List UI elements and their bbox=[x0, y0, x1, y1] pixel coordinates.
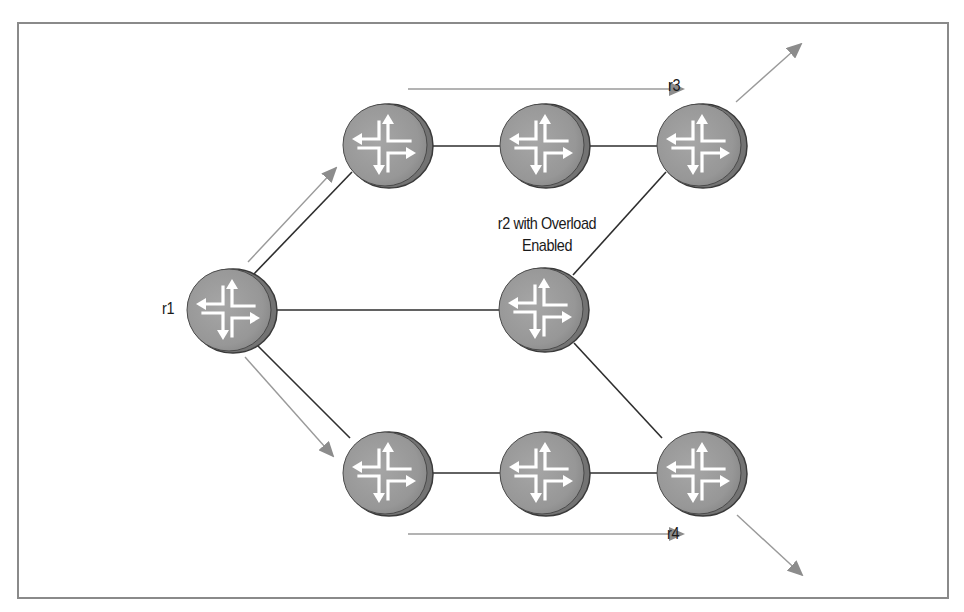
router-icon bbox=[187, 269, 277, 353]
router-icon bbox=[657, 432, 747, 516]
router-node-top-left bbox=[343, 104, 433, 188]
label-r2-line2: Enabled bbox=[475, 236, 620, 256]
traffic-arrow-r4-exit bbox=[737, 515, 802, 575]
router-node-bottom-mid bbox=[500, 432, 590, 516]
traffic-arrow-r3-exit bbox=[736, 44, 801, 102]
router-node-top-mid bbox=[500, 104, 590, 188]
link-r1-bottom-left bbox=[255, 343, 350, 438]
router-node-bottom-left bbox=[343, 432, 433, 516]
link-r1-top-left bbox=[252, 172, 352, 276]
router-icon bbox=[499, 268, 589, 352]
label-r2-line1: r2 with Overload bbox=[475, 214, 620, 234]
router-icon bbox=[343, 432, 433, 516]
router-icon bbox=[657, 104, 747, 188]
links bbox=[252, 146, 666, 473]
traffic-arrow-r1-down bbox=[245, 357, 333, 456]
label-r1: r1 bbox=[162, 299, 174, 319]
router-icon bbox=[500, 432, 590, 516]
router-node-r2 bbox=[499, 268, 589, 352]
label-r3: r3 bbox=[668, 76, 680, 96]
link-r2-r4 bbox=[574, 343, 662, 438]
router-node-r1 bbox=[187, 269, 277, 353]
router-node-r3 bbox=[657, 104, 747, 188]
router-icon bbox=[500, 104, 590, 188]
router-icon bbox=[343, 104, 433, 188]
network-diagram bbox=[0, 0, 964, 612]
router-node-r4 bbox=[657, 432, 747, 516]
traffic-arrow-r1-up bbox=[248, 168, 336, 262]
label-r4: r4 bbox=[667, 524, 679, 544]
